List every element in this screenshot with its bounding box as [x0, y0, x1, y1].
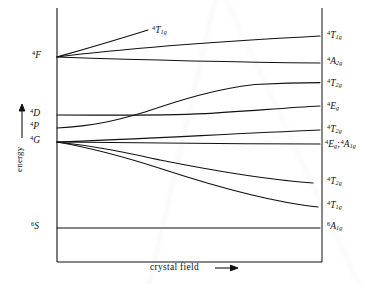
term-6S-letter: S: [34, 221, 39, 231]
term-4G-letter: G: [33, 135, 40, 145]
curve-4F-to-4T1g-top: [57, 36, 320, 57]
term-4D-letter: D: [33, 108, 40, 118]
term-label-4G: 4G: [30, 135, 40, 145]
state-4T1g-lower-subscript: 1g: [336, 203, 342, 210]
state-4T2g-upper-subscript: 2g: [336, 81, 342, 88]
state-4T1g-interior-subscript: 1g: [161, 28, 167, 35]
state-4T2g-mid-subscript: 2g: [336, 127, 342, 134]
state-label-4T2g-lower: 4T2g: [327, 176, 342, 187]
state-4Eg-subscript: g: [336, 104, 339, 111]
state-label-4T2g-upper: 4T2g: [327, 78, 342, 89]
term-label-6S: 6S: [31, 221, 39, 231]
state-label-6A1g: 6A1g: [327, 221, 342, 232]
curve-4D-to-4Eg: [57, 106, 320, 115]
state-4A2g-subscript: 2g: [336, 59, 342, 66]
energy-axis-label: energy: [14, 146, 24, 172]
state-label-4Eg-4A1g: 4Eg; 4A1g: [325, 139, 356, 150]
energy-level-plot: [0, 0, 373, 284]
state-label-4T1g-top: 4T1g: [327, 30, 342, 41]
energy-axis-arrow-head: [19, 104, 25, 111]
term-label-4P: 4P: [30, 121, 39, 131]
state-4A1g-pair-subscript: 1g: [350, 142, 356, 149]
term-label-4F: 4F: [32, 50, 41, 60]
curve-4P-to-4T2g: [57, 83, 320, 128]
tanabe-sugano-diagram: 4F 4D 4P 4G 6S 4T1g 4T1g 4A2g 4T2g 4Eg 4…: [0, 0, 373, 284]
crystal-field-axis-label: crystal field: [150, 262, 199, 272]
curve-4G-to-4T1g-lower: [57, 142, 318, 207]
curve-4G-to-4Eg-4A1g: [57, 142, 320, 144]
state-label-4Eg: 4Eg: [327, 101, 339, 112]
term-4P-letter: P: [33, 121, 39, 131]
state-pair-separator: ;: [337, 139, 340, 149]
state-label-4T1g-lower: 4T1g: [327, 200, 342, 211]
curve-4F-to-4A2g: [57, 57, 320, 63]
crystal-field-arrow-head: [231, 265, 239, 271]
energy-curves: [57, 30, 320, 228]
state-label-4A2g: 4A2g: [327, 56, 342, 67]
state-label-4T1g-interior: 4T1g: [152, 25, 167, 36]
term-label-4D: 4D: [30, 108, 40, 118]
state-4T1g-top-subscript: 1g: [336, 33, 342, 40]
state-6A1g-subscript: 1g: [336, 224, 342, 231]
curve-4F-to-4T1g-interior: [57, 30, 148, 57]
curve-4G-to-4T2g-mid: [57, 130, 320, 142]
term-4F-letter: F: [35, 50, 41, 60]
state-label-4T2g-mid: 4T2g: [327, 124, 342, 135]
axis-arrows: [19, 104, 238, 271]
state-4T2g-lower-subscript: 2g: [336, 179, 342, 186]
